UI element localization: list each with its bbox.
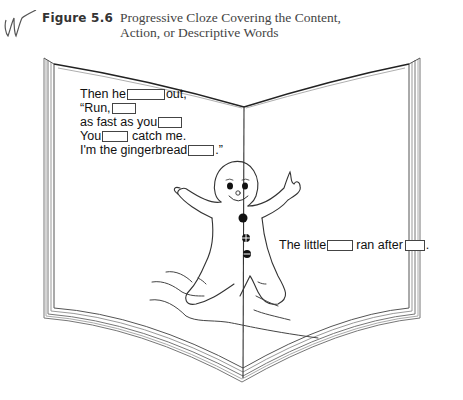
line-text: .” [215,143,223,157]
sentence-text: . [426,238,429,252]
cloze-line-2: “Run, [80,101,223,115]
cloze-line-3: as fast as you [80,115,223,129]
cloze-blank[interactable] [327,240,353,251]
cloze-blank[interactable] [188,145,214,156]
sentence-text: The little [279,238,326,252]
line-text: catch me. [132,129,186,143]
line-text: Then he [80,87,126,101]
line-text: as fast as you [80,115,157,129]
right-page-cloze-sentence: The little ran after . [279,238,429,252]
cloze-line-4: You catch me. [80,129,223,143]
cloze-blank[interactable] [405,240,425,251]
line-text: “Run, [80,101,111,115]
cloze-blank[interactable] [112,103,136,114]
cloze-blank[interactable] [102,131,128,142]
line-text: You [80,129,101,143]
open-book-illustration [0,0,463,400]
line-text: out, [166,87,187,101]
cloze-blank[interactable] [158,117,182,128]
line-text: I'm the gingerbread [80,143,187,157]
motion-lines [150,272,318,338]
gingerbread-man-icon [174,161,300,304]
left-page-cloze-passage: Then he out, “Run, as fast as you You ca… [80,87,223,157]
sentence-text: ran after [356,238,403,252]
cloze-line-1: Then he out, [80,87,223,101]
cloze-blank[interactable] [127,89,165,100]
cloze-line-5: I'm the gingerbread .” [80,143,223,157]
